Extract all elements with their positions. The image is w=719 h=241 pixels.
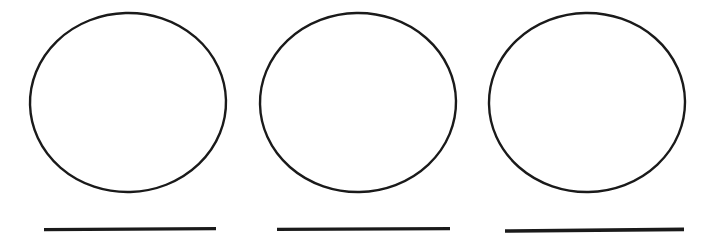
figure-canvas: [0, 0, 719, 241]
underline-stroke-1[interactable]: [44, 229, 216, 230]
underline-stroke-3[interactable]: [505, 229, 684, 231]
background: [0, 0, 719, 241]
underline-stroke-2[interactable]: [277, 229, 450, 230]
line-art-figure: [0, 0, 719, 241]
